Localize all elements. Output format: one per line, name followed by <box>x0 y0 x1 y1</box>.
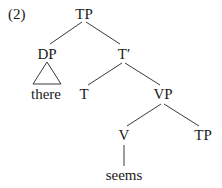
node-tbar: T′ <box>118 46 130 62</box>
node-dp: DP <box>37 46 56 62</box>
edge-vp-v <box>127 104 161 126</box>
leaf-seems: seems <box>106 167 143 183</box>
edge-tp-tbar <box>86 22 120 44</box>
edge-tbar-vp <box>125 63 160 85</box>
node-vp: VP <box>153 86 172 102</box>
node-v: V <box>119 127 130 143</box>
edge-tbar-t <box>88 63 122 85</box>
edge-vp-tp <box>164 104 199 126</box>
node-tp-root: TP <box>75 6 93 22</box>
node-tp-lower: TP <box>194 127 212 143</box>
example-number: (2) <box>8 6 26 23</box>
triangle-dp <box>33 62 61 84</box>
leaf-there: there <box>31 86 61 102</box>
edge-tp-dp <box>50 22 82 44</box>
syntax-tree: (2) TP DP T′ there T VP V TP seems <box>0 0 222 188</box>
node-t: T <box>79 86 88 102</box>
